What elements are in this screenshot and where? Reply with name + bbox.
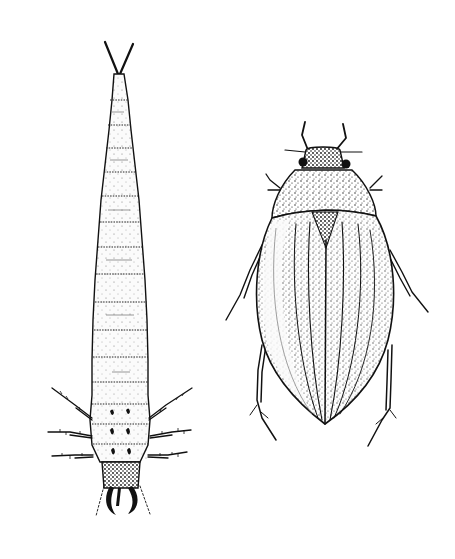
- beetle-eye-left: [299, 158, 308, 167]
- larva-mandibles: [106, 486, 138, 515]
- beetle-eye-right: [342, 160, 351, 169]
- illustration: [0, 0, 455, 559]
- larva-cerci: [105, 42, 133, 74]
- larva-drawing: [48, 42, 192, 516]
- beetle-head: [302, 147, 344, 168]
- larva-head: [102, 462, 140, 488]
- beetle-drawing: [226, 122, 428, 446]
